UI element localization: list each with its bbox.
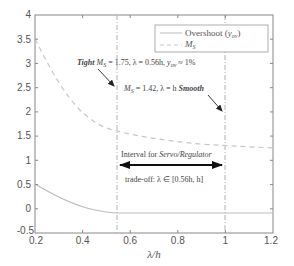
svg-text:4: 4	[25, 9, 31, 20]
svg-text:0.5: 0.5	[17, 179, 31, 190]
svg-text:0.4: 0.4	[76, 235, 90, 246]
chart: 4 3.5 3 2.5 2 1.5 1 0.5 0 -0.5 0.2 0.4 0…	[0, 0, 294, 266]
svg-text:1.2: 1.2	[264, 235, 278, 246]
svg-text:2: 2	[25, 106, 31, 117]
svg-text:1.5: 1.5	[17, 130, 31, 141]
svg-text:0: 0	[25, 203, 31, 214]
x-axis-label: λ/h	[146, 248, 161, 260]
svg-text:3.5: 3.5	[17, 34, 31, 45]
legend: Overshoot (yov) MS	[155, 25, 268, 52]
annotation-smooth: MS = 1.42, λ = h Smooth	[123, 84, 204, 94]
svg-text:1: 1	[223, 235, 229, 246]
svg-text:3: 3	[25, 58, 31, 69]
y-tick-labels: 4 3.5 3 2.5 2 1.5 1 0.5 0 -0.5	[17, 9, 35, 236]
x-tick-labels: 0.2 0.4 0.6 0.8 1 1.2	[29, 235, 278, 246]
annotation-interval: Interval for Servo/Regulator	[121, 150, 213, 159]
svg-text:2.5: 2.5	[17, 82, 31, 93]
annotation-tradeoff: trade-off: λ ∈ [0.56h, h]	[125, 175, 204, 184]
svg-text:0.2: 0.2	[29, 235, 43, 246]
svg-text:0.8: 0.8	[171, 235, 185, 246]
annotation-tight: Tight MS = 1.75, λ = 0.56h, yov ≈ 1%	[77, 58, 196, 68]
svg-text:1: 1	[25, 155, 31, 166]
svg-text:0.6: 0.6	[123, 235, 137, 246]
